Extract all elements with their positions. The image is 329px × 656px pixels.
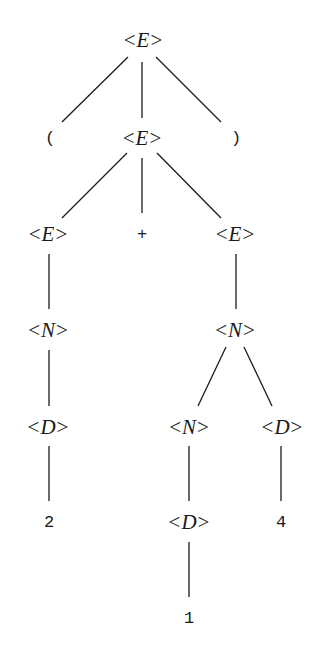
node-left-expression: <E>	[29, 224, 68, 245]
node-nested-digit: <D>	[169, 512, 210, 533]
node-left-number: <N>	[28, 320, 68, 341]
node-literal-2: 2	[44, 514, 54, 531]
node-plus-operator: +	[137, 226, 147, 243]
node-inner-expression: <E>	[123, 128, 162, 149]
parse-tree-diagram: <E> ( <E> ) <E> + <E> <N> <N> <D> <N> <D…	[0, 0, 329, 656]
tree-edge-n2-n4	[62, 153, 127, 218]
tree-edge-n0-n3	[156, 57, 221, 122]
node-root-expression: <E>	[124, 30, 163, 51]
tree-edge-n8-n11	[244, 347, 272, 406]
node-close-paren: )	[231, 130, 241, 147]
tree-edge-n0-n1	[62, 57, 128, 122]
node-left-digit: <D>	[28, 417, 69, 438]
tree-edge-n2-n6	[157, 153, 221, 218]
node-nested-number: <N>	[169, 417, 209, 438]
node-open-paren: (	[45, 130, 55, 147]
tree-edge-n8-n10	[198, 347, 226, 406]
node-trailing-digit: <D>	[262, 417, 303, 438]
node-literal-4: 4	[276, 514, 286, 531]
node-right-expression: <E>	[216, 224, 255, 245]
node-right-number: <N>	[215, 320, 255, 341]
node-literal-1: 1	[184, 610, 194, 627]
